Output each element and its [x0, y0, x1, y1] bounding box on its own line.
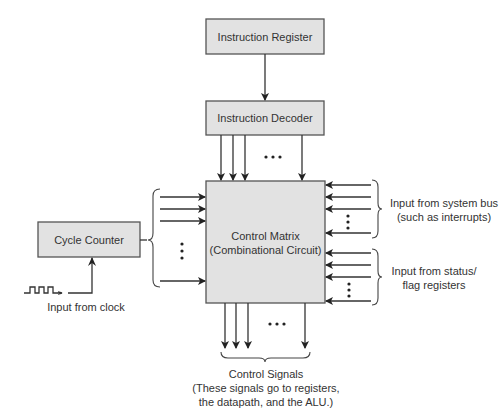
status-flag-input-label: Input from status/ flag registers	[382, 264, 486, 292]
control-matrix-label: Control Matrix (Combinational Circuit)	[206, 229, 325, 257]
instruction-decoder-label: Instruction Decoder	[206, 101, 324, 135]
status-label-line1: Input from status/	[382, 264, 486, 278]
status-label-line2: flag registers	[382, 278, 486, 292]
control-signals-label: Control Signals (These signals go to reg…	[186, 367, 346, 409]
clock-input-label: Input from clock	[36, 300, 136, 314]
system-bus-input-label: Input from system bus (such as interrupt…	[384, 196, 504, 224]
control-signals-desc-line2: the datapath, and the ALU.)	[186, 395, 346, 409]
instruction-register-label: Instruction Register	[206, 19, 324, 54]
cycle-counter-label: Cycle Counter	[38, 222, 140, 257]
system-bus-label-line1: Input from system bus	[384, 196, 504, 210]
control-signals-desc-line1: (These signals go to registers,	[186, 381, 346, 395]
control-unit-diagram: Instruction Register Instruction Decoder…	[0, 0, 504, 419]
control-matrix-title: Control Matrix	[206, 229, 325, 243]
cycle-counter-output-arrows	[140, 189, 205, 287]
system-bus-label-line2: (such as interrupts)	[384, 210, 504, 224]
control-signal-output-arrows	[221, 303, 310, 362]
control-signals-title: Control Signals	[186, 367, 346, 381]
control-matrix-subtitle: (Combinational Circuit)	[206, 243, 325, 257]
status-flag-input-arrows	[326, 249, 382, 305]
system-bus-input-arrows	[326, 180, 382, 238]
decoder-output-arrows	[221, 135, 302, 180]
clock-waveform-icon	[24, 287, 58, 293]
clock-input	[24, 257, 96, 294]
